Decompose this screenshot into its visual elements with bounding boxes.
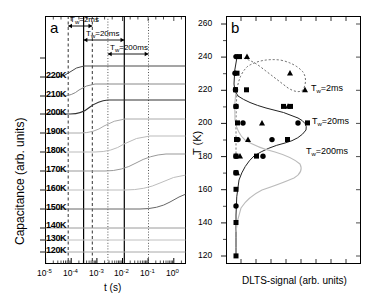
panel-b-ytick-140: 140: [198, 218, 212, 227]
panel-b-ytick-240: 240: [198, 52, 212, 61]
series-label-tw-200ms-rest: =200ms: [316, 146, 348, 156]
series-label-tw-20ms-rest: =20ms: [322, 116, 349, 126]
panel-b-ytick-220: 220: [198, 85, 212, 94]
series-label-tw-2ms: Tw=2ms: [311, 84, 343, 94]
panel-b-ytick-200: 200: [198, 118, 212, 127]
panel-b-letter: b: [231, 20, 239, 35]
panel-b-markers: [232, 54, 310, 259]
series-label-tw-200ms: Tw=200ms: [306, 147, 348, 157]
panel-b-xlabel: DLTS-signal (arb. units): [242, 276, 347, 286]
series-label-tw-20ms: Tw=20ms: [312, 117, 349, 127]
panel-b-ytick-120: 120: [198, 251, 212, 260]
panel-b-ytick-160: 160: [198, 185, 212, 194]
series-label-tw-2ms-rest: =2ms: [321, 83, 343, 93]
panel-b-ylabel: T (K): [192, 131, 203, 155]
panel-b-ytick-260: 260: [198, 19, 212, 28]
figure-container: a Tw=2ms Tw=20ms Tw=200ms 220K 210K 200K…: [0, 0, 383, 307]
